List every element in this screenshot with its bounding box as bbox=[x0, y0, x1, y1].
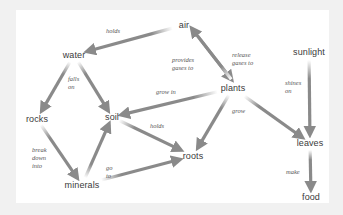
node-rocks: rocks bbox=[26, 114, 48, 124]
node-food: food bbox=[302, 192, 320, 202]
arrow-plants-to-air bbox=[192, 29, 231, 79]
arrow-air-to-water bbox=[88, 28, 173, 51]
arrow-plants-to-roots bbox=[198, 95, 229, 147]
arrow-leaves-to-food bbox=[310, 150, 311, 189]
edge-label-release-gases-to: release gases to bbox=[232, 51, 253, 67]
edge-label-shines-on: shines on bbox=[285, 79, 301, 95]
node-roots: roots bbox=[183, 151, 204, 161]
node-leaves: leaves bbox=[297, 138, 324, 148]
node-sunlight: sunlight bbox=[293, 47, 325, 57]
edge-label-grow-in: grow in bbox=[156, 88, 176, 96]
edge-label-falls-on: falls on bbox=[68, 75, 79, 91]
arrow-sunlight-to-leaves bbox=[309, 60, 310, 134]
node-soil: soil bbox=[105, 112, 119, 122]
node-water: water bbox=[63, 50, 86, 60]
arrow-water-to-soil bbox=[78, 62, 108, 110]
arrows-layer bbox=[0, 0, 343, 215]
edge-label-break-down-into: break down into bbox=[32, 146, 47, 170]
arrow-minerals-to-roots bbox=[101, 160, 179, 180]
node-minerals: minerals bbox=[65, 180, 100, 190]
edge-label-holds-air-water: holds bbox=[106, 27, 120, 35]
edge-label-holds-soil-roots: holds bbox=[150, 122, 164, 130]
node-plants: plants bbox=[221, 83, 246, 93]
arrow-water-to-rocks bbox=[42, 62, 70, 110]
edge-label-grow: grow bbox=[232, 107, 245, 115]
edge-label-provides-gases-to: provides gases to bbox=[172, 56, 194, 72]
edge-label-go-to: go to bbox=[106, 164, 113, 180]
edge-label-make: make bbox=[286, 168, 300, 176]
arrow-plants-to-leaves bbox=[244, 96, 301, 137]
node-air: air bbox=[179, 20, 189, 30]
